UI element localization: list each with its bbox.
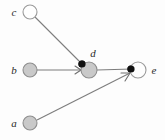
node-label-d: d [90, 47, 96, 59]
edge-c-to-d [35, 17, 86, 68]
node-label-a: a [11, 117, 17, 129]
node-b[interactable]: b [11, 63, 37, 77]
node-endpoint-dot-d [78, 60, 85, 67]
node-d[interactable]: d [78, 47, 97, 78]
node-endpoint-dot-e [127, 65, 134, 72]
node-a[interactable]: a [11, 116, 37, 130]
node-circle-c[interactable] [23, 5, 37, 19]
edge-line-a-to-e [37, 73, 130, 120]
node-circle-a[interactable] [23, 116, 37, 130]
edge-a-to-e [37, 73, 130, 120]
node-label-c: c [12, 6, 17, 18]
node-e[interactable]: e [127, 62, 156, 78]
node-label-b: b [11, 64, 17, 76]
node-label-e: e [152, 64, 157, 76]
node-layer: c b a d e [11, 5, 156, 130]
graph-svg: c b a d e [0, 0, 165, 140]
graph-canvas: c b a d e [0, 0, 165, 140]
edge-line-c-to-d [35, 17, 83, 65]
node-c[interactable]: c [12, 5, 37, 19]
node-circle-b[interactable] [23, 63, 37, 77]
edge-line-d-to-e [97, 69, 132, 70]
edge-b-to-d [37, 66, 81, 74]
